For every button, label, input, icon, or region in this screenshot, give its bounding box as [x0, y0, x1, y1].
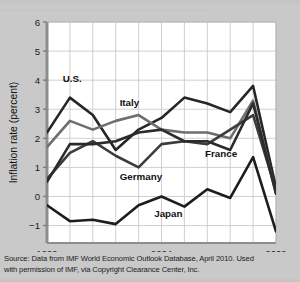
source-note-line-1: Source: Data from IMF World Economic Out…: [4, 254, 298, 265]
y-axis-title: Inflation rate (percent): [8, 82, 19, 184]
series-label-us: U.S.: [63, 73, 82, 84]
inflation-rate-figure: −10123456199920042009Inflation rate (per…: [0, 0, 300, 282]
source-note: Source: Data from IMF World Economic Out…: [4, 254, 298, 275]
y-axis-tick-label: 1: [35, 162, 40, 173]
series-label-italy: Italy: [120, 97, 140, 108]
y-axis-tick-label: 5: [35, 46, 40, 57]
inflation-line-chart: −10123456199920042009Inflation rate (per…: [0, 0, 300, 252]
series-label-japan: Japan: [154, 208, 182, 219]
y-axis-tick-label: 2: [35, 133, 40, 144]
y-axis-tick-label: 6: [35, 17, 40, 28]
x-axis-tick-label: 2009: [265, 248, 286, 252]
x-axis-tick-label: 1999: [36, 248, 57, 252]
x-axis-tick-label: 2004: [151, 248, 173, 252]
series-label-germany: Germany: [120, 171, 163, 182]
y-axis-tick-label: 0: [35, 191, 40, 202]
page-texture-bottom: [0, 276, 300, 282]
y-axis-tick-label: 3: [35, 104, 40, 115]
y-axis-tick-label: 4: [35, 75, 41, 86]
series-label-france: France: [205, 148, 238, 159]
source-note-line-2: with permission of IMF, via Copyright Cl…: [4, 265, 298, 276]
y-axis-tick-label: −1: [29, 220, 40, 231]
